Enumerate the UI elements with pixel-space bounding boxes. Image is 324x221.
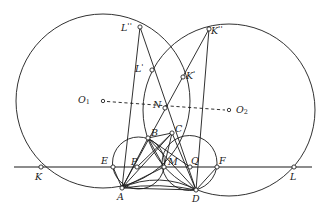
point-label-A: A [117,192,124,202]
point-marker-O1[interactable] [101,99,104,102]
point-marker-N[interactable] [163,106,167,110]
point-label-Q: Q [191,156,199,166]
point-label-C: C [175,124,182,134]
point-marker-Lp[interactable] [150,68,154,72]
point-label-B: B [151,128,158,138]
point-label-M: M [168,157,178,167]
geometry-figure: O1O2KLEFPQMNABCDL'K'L''K'' [0,0,324,221]
figure-canvas [0,0,324,221]
point-marker-B[interactable] [146,136,150,140]
point-marker-Lpp[interactable] [138,25,142,29]
segment-A-D [122,188,196,190]
point-marker-A[interactable] [120,186,124,190]
segment-F-D [196,167,217,190]
point-label-Kpp: K'' [211,25,223,35]
point-marker-E[interactable] [111,165,115,169]
segment-A-M [122,167,164,188]
point-marker-M[interactable] [162,165,166,169]
point-marker-K[interactable] [39,165,43,169]
point-marker-L[interactable] [292,165,296,169]
point-label-N: N [153,100,161,110]
point-label-D: D [192,194,200,204]
point-marker-C[interactable] [170,131,174,135]
point-label-K: K [35,172,42,182]
point-label-L: L [290,172,296,182]
point-label-F: F [219,156,226,166]
small-circle-left [113,137,165,189]
segment-E-A [113,167,122,188]
point-label-P: P [131,157,137,167]
point-label-O1: O1 [78,95,90,106]
point-marker-D[interactable] [194,188,198,192]
point-label-Lpp: L'' [121,22,132,32]
point-marker-O2[interactable] [227,108,230,111]
point-label-Lp: L' [135,63,144,73]
point-label-O2: O2 [236,105,248,116]
point-label-E: E [101,156,108,166]
point-marker-Kp[interactable] [181,75,185,79]
point-label-Kp: K' [186,70,196,80]
